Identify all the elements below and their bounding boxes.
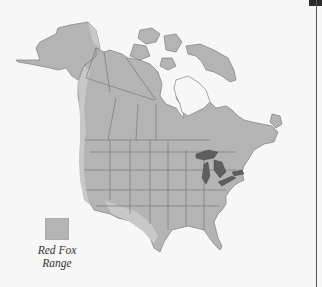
- legend-label-line2: Range: [30, 257, 84, 270]
- legend-swatch: [45, 218, 69, 240]
- arctic-island-2: [164, 34, 182, 52]
- arctic-island-4: [160, 58, 176, 70]
- legend-label: Red Fox Range: [30, 244, 84, 270]
- right-edge-rule: [316, 0, 317, 287]
- arctic-island-1: [138, 28, 160, 44]
- baffin-island: [186, 44, 236, 82]
- legend-label-line1: Red Fox: [30, 244, 84, 257]
- arctic-island-3: [130, 44, 150, 60]
